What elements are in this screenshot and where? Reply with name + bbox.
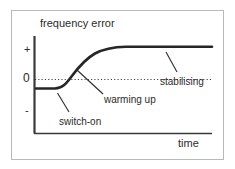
- annotation-stabilising: stabilising: [160, 76, 204, 87]
- stabilising-leader-line: [166, 52, 177, 72]
- y-tick-label-positive: +: [24, 43, 30, 55]
- y-axis-title: frequency error: [40, 17, 115, 29]
- y-tick-label-negative: -: [25, 104, 29, 116]
- annotation-warming-up: warming up: [104, 94, 156, 105]
- screenshot-root: frequency error time + 0 - switch-on war…: [0, 0, 235, 169]
- x-axis-title: time: [178, 137, 199, 149]
- warming-up-leader-line: [77, 70, 103, 94]
- annotation-switch-on: switch-on: [59, 116, 101, 127]
- switch-on-leader-line: [58, 93, 70, 112]
- y-tick-label-zero: 0: [23, 71, 30, 85]
